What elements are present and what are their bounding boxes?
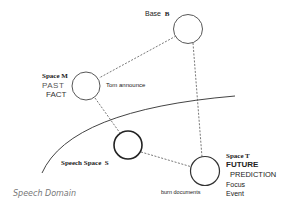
space-t-event: Event [226,190,244,197]
space-t-title: Space T [226,153,250,160]
connection-base-m [99,36,176,78]
speech-space-circle [114,131,142,159]
space-t-content: burn documents [161,190,200,196]
base-space-label: Base B [145,10,170,18]
space-m-fact: FACT [46,91,66,99]
space-t-prediction: PREDICTION [230,171,276,179]
connection-m-s [95,98,120,133]
space-t-future: FUTURE [226,161,258,169]
speech-space-label: Speech Space S [61,160,109,167]
space-m-title: Space M [42,73,68,80]
speech-domain-label: Speech Domain [13,190,76,198]
space-m-content: Tom announce [106,82,145,88]
space-m-circle [72,72,100,100]
mental-spaces-diagram [0,0,291,211]
base-space-circle [174,15,203,44]
connection-s-t [141,152,192,167]
space-m-past: PAST [42,82,64,90]
space-t-circle [191,157,220,186]
space-t-focus: Focus [226,181,245,188]
